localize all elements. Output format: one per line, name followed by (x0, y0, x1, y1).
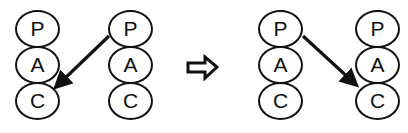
node-p: P (258, 10, 303, 48)
node-label: P (273, 18, 287, 39)
node-label: C (30, 90, 45, 111)
node-p: P (108, 10, 153, 48)
node-label: C (370, 90, 385, 111)
node-label: C (123, 90, 138, 111)
before-left-stack: P A C (15, 10, 62, 118)
node-label: P (30, 18, 44, 39)
before-right-stack: P A C (108, 10, 155, 118)
node-a: A (15, 46, 60, 84)
diagram-canvas: P A C P A C P (0, 0, 408, 133)
after-left-stack: P A C (258, 10, 305, 118)
node-a: A (355, 46, 400, 84)
node-label: P (370, 18, 384, 39)
transform-block-arrow (188, 57, 217, 78)
node-c: C (258, 82, 303, 120)
node-a: A (108, 46, 153, 84)
node-label: P (123, 18, 137, 39)
node-label: A (273, 54, 287, 75)
node-p: P (15, 10, 60, 48)
node-c: C (15, 82, 60, 120)
node-c: C (355, 82, 400, 120)
node-label: A (123, 54, 137, 75)
before-panel: P A C P A C (0, 0, 175, 133)
node-p: P (355, 10, 400, 48)
node-label: C (273, 90, 288, 111)
node-label: A (30, 54, 44, 75)
after-panel: P A C P A C (240, 0, 408, 133)
node-a: A (258, 46, 303, 84)
node-c: C (108, 82, 153, 120)
after-right-stack: P A C (355, 10, 402, 118)
node-label: A (370, 54, 384, 75)
